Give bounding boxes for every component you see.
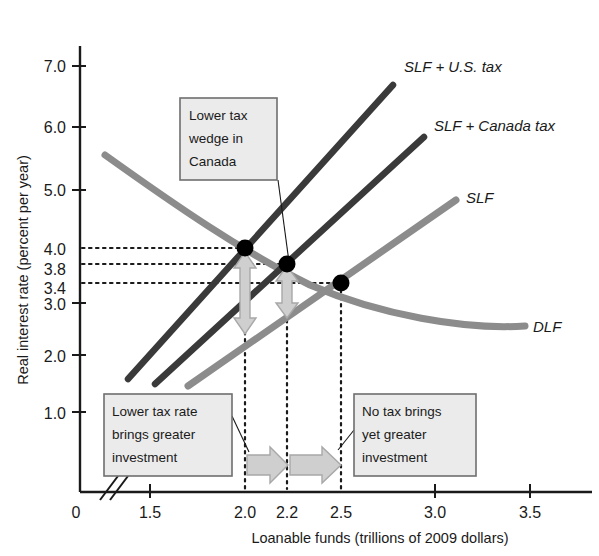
tax-wedge-callout-line-3: Canada — [189, 154, 237, 169]
leader-line-tax-wedge — [278, 180, 289, 262]
curve-label-slf: SLF — [466, 189, 494, 206]
lower-tax-rate-callout-line-3: investment — [112, 450, 178, 465]
no-tax-callout-line-3: investment — [362, 450, 428, 465]
us-equilibrium-dot — [237, 240, 254, 257]
y-tick-2: 2.0 — [44, 348, 66, 365]
x-tick-0: 0 — [72, 504, 81, 521]
no-tax-callout-line-1: No tax brings — [362, 404, 442, 419]
investment-gain-arrow-2 — [290, 447, 341, 483]
curve-label-dlf: DLF — [533, 318, 562, 335]
x-axis-break-icon — [100, 476, 128, 500]
curve-labels: SLF + U.S. tax SLF + Canada tax SLF DLF — [404, 58, 562, 335]
y-tick-3: 3.0 — [44, 296, 66, 313]
tax-wedge-callout-line-1: Lower tax — [189, 108, 248, 123]
no-tax-equilibrium-dot — [333, 275, 350, 292]
y-tick-4: 4.0 — [44, 241, 66, 258]
x-tick-25: 2.5 — [330, 504, 352, 521]
y-tick-1: 1.0 — [44, 405, 66, 422]
tax-wedge-callout: Lower tax wedge in Canada — [180, 98, 277, 180]
y-axis-title: Real interest rate (percent per year) — [15, 155, 31, 385]
curve-label-slf-canada-tax: SLF + Canada tax — [434, 117, 556, 134]
no-tax-callout-line-2: yet greater — [362, 427, 427, 442]
x-tick-35: 3.5 — [519, 504, 541, 521]
lower-tax-rate-callout-line-1: Lower tax rate — [112, 404, 198, 419]
x-tick-20: 2.0 — [234, 504, 256, 521]
y-tick-34: 3.4 — [44, 280, 66, 297]
y-tick-7: 7.0 — [44, 58, 66, 75]
canada-equilibrium-dot — [279, 256, 296, 273]
curve-label-slf-us-tax: SLF + U.S. tax — [404, 58, 502, 75]
tax-wedge-callout-line-2: wedge in — [188, 131, 243, 146]
lower-tax-rate-callout: Lower tax rate brings greater investment — [104, 394, 232, 476]
x-tick-labels: 0 1.5 2.0 2.2 2.5 3.0 3.5 — [72, 504, 542, 521]
no-tax-callout: No tax brings yet greater investment — [354, 394, 476, 476]
x-axis-title: Loanable funds (trillions of 2009 dollar… — [251, 530, 508, 546]
x-tick-30: 3.0 — [424, 504, 446, 521]
loanable-funds-chart: 7.0 6.0 5.0 4.0 3.8 3.4 3.0 2.0 1.0 0 1.… — [0, 0, 599, 556]
leader-line-lower-tax-rate — [232, 416, 249, 452]
chart-canvas: 7.0 6.0 5.0 4.0 3.8 3.4 3.0 2.0 1.0 0 1.… — [0, 0, 599, 556]
y-tick-38: 3.8 — [44, 261, 66, 278]
lower-tax-rate-callout-line-2: brings greater — [112, 427, 196, 442]
y-tick-labels: 7.0 6.0 5.0 4.0 3.8 3.4 3.0 2.0 1.0 — [44, 58, 66, 422]
x-tick-15: 1.5 — [139, 504, 161, 521]
investment-gain-arrow-1 — [247, 447, 288, 483]
investment-arrows — [247, 447, 341, 483]
x-tick-22: 2.2 — [276, 504, 298, 521]
y-tick-5: 5.0 — [44, 182, 66, 199]
y-tick-6: 6.0 — [44, 119, 66, 136]
